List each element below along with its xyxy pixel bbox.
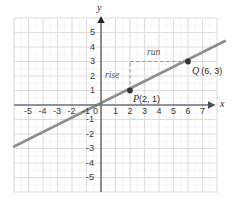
x-tick-label--3: -3 (53, 107, 61, 116)
y-tick-label-1: 1 (90, 86, 95, 95)
run-label: run (147, 48, 160, 58)
x-tick-label-1: 1 (113, 107, 118, 116)
y-tick-label--1: -1 (86, 115, 94, 124)
y-tick-label-4: 4 (90, 43, 95, 52)
point-q-name: Q (192, 65, 199, 76)
y-tick-label--2: -2 (86, 130, 94, 139)
x-tick-label--2: -2 (68, 107, 76, 116)
x-tick-label-5: 5 (171, 107, 176, 116)
point-p-coords: (2, 1) (139, 94, 160, 104)
point-q-coords: (6, 3) (201, 66, 222, 76)
x-tick-label-2: 2 (128, 107, 133, 116)
x-tick-label--4: -4 (39, 107, 47, 116)
y-tick-label--4: -4 (86, 159, 94, 168)
y-tick-label--3: -3 (86, 144, 94, 153)
point-q-marker (185, 59, 191, 65)
plotted-line (14, 41, 225, 147)
y-tick-label--5: -5 (86, 173, 94, 182)
x-tick-label-7: 7 (200, 107, 205, 116)
y-axis-label: y (97, 3, 101, 13)
y-tick-label-3: 3 (90, 57, 95, 66)
y-tick-label-5: 5 (90, 28, 95, 37)
x-tick-label--5: -5 (24, 107, 32, 116)
rise-label: rise (105, 71, 119, 81)
x-tick-label-4: 4 (157, 107, 162, 116)
coordinate-plane-figure: y x 0 -5 -4 -3 -2 -1 1 2 3 4 5 6 7 5 4 3… (0, 0, 232, 204)
x-tick-label-6: 6 (186, 107, 191, 116)
x-axis-label: x (220, 99, 224, 109)
point-p-label: P(2, 1) (133, 94, 160, 104)
point-q-label: Q(6, 3) (192, 66, 222, 76)
x-tick-label-3: 3 (142, 107, 147, 116)
y-tick-label-2: 2 (90, 72, 95, 81)
graph-canvas (0, 0, 232, 204)
